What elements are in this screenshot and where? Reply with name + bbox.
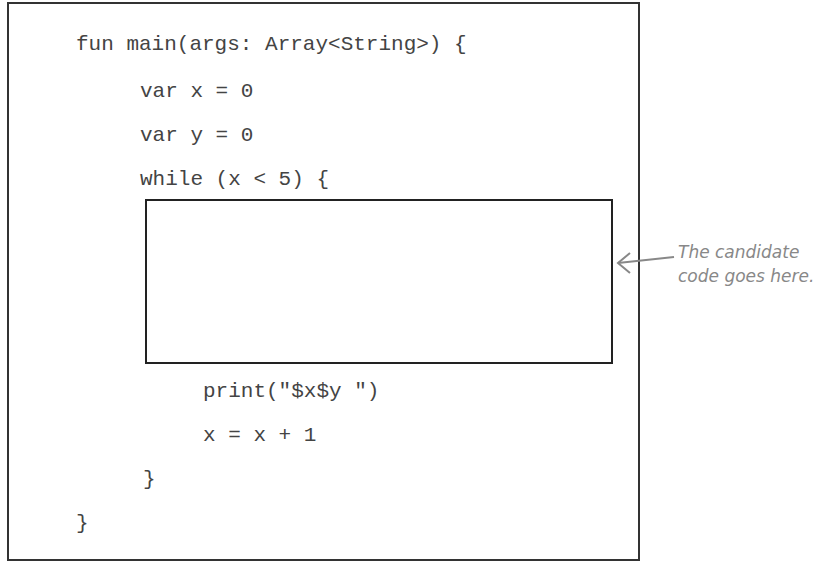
- annotation-note: The candidate code goes here.: [678, 240, 814, 288]
- code-line-increment: x = x + 1: [203, 424, 316, 448]
- code-line-main-close: }: [76, 512, 89, 536]
- annotation-line-1: The candidate: [678, 240, 814, 264]
- annotation-line-2: code goes here.: [678, 264, 814, 288]
- code-line-fun-main: fun main(args: Array<String>) {: [76, 33, 467, 57]
- arrow-left-icon: [614, 247, 678, 277]
- code-line-var-x: var x = 0: [140, 80, 253, 104]
- code-line-var-y: var y = 0: [140, 124, 253, 148]
- code-line-while-close: }: [143, 468, 156, 492]
- candidate-code-box: [145, 199, 613, 364]
- code-line-print: print("$x$y "): [203, 380, 379, 404]
- code-line-while: while (x < 5) {: [140, 168, 329, 192]
